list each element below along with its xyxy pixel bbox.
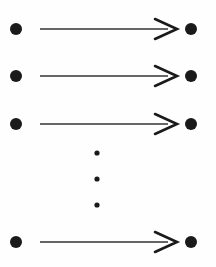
ellipsis-dot <box>94 176 99 181</box>
target-node-dot <box>185 70 197 82</box>
target-node-dot <box>185 236 197 248</box>
source-node-dot <box>10 236 22 248</box>
arrow-row <box>10 66 197 86</box>
ellipsis-dot <box>94 202 99 207</box>
diagram-svg-canvas <box>0 0 216 267</box>
arrow-row <box>10 114 197 134</box>
vertical-ellipsis <box>94 150 99 207</box>
source-node-dot <box>10 118 22 130</box>
ellipsis-dot <box>94 150 99 155</box>
arrow-row <box>10 19 197 39</box>
arrow-row <box>10 232 197 252</box>
source-node-dot <box>10 70 22 82</box>
target-node-dot <box>185 118 197 130</box>
source-node-dot <box>10 23 22 35</box>
arrow-diagram-figure <box>0 0 216 267</box>
target-node-dot <box>185 23 197 35</box>
